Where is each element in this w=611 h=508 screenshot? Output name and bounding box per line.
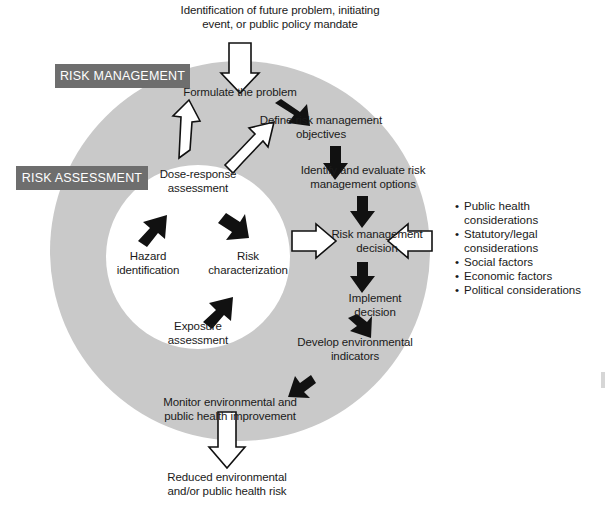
step-risk-management-decision: Risk management decision (322, 228, 432, 255)
tag-risk-management: RISK MANAGEMENT (55, 64, 190, 88)
consideration-item: Statutory/legal considerations (455, 227, 605, 255)
step-monitor-environmental-public-health: Monitor environmental and public health … (140, 396, 320, 423)
step-exposure-assessment: Exposure assessment (143, 320, 253, 347)
top-trigger-label: Identification of future problem, initia… (155, 4, 405, 31)
consideration-item: Economic factors (455, 269, 605, 283)
step-define-risk-management-objectives: Define risk management objectives (246, 114, 396, 141)
consideration-item: Social factors (455, 255, 605, 269)
step-hazard-identification: Hazard identification (98, 250, 198, 277)
consideration-item: Political considerations (455, 283, 605, 297)
consideration-item: Public health considerations (455, 199, 605, 227)
step-formulate-the-problem: Formulate the problem (170, 86, 310, 100)
step-dose-response-assessment: Dose-response assessment (140, 168, 256, 195)
step-risk-characterization: Risk characterization (194, 250, 302, 277)
tag-risk-assessment: RISK ASSESSMENT (16, 166, 148, 190)
step-develop-environmental-indicators: Develop environmental indicators (280, 336, 430, 363)
diagram-canvas: Identification of future problem, initia… (0, 0, 611, 508)
page-edge-mark (601, 372, 605, 388)
bottom-outcome-label: Reduced environmental and/or public heal… (147, 471, 307, 498)
step-identify-and-evaluate-options: Identify and evaluate risk management op… (283, 164, 443, 191)
step-implement-decision: Implement decision (330, 292, 420, 319)
considerations-list: Public health considerations Statutory/l… (455, 199, 605, 297)
